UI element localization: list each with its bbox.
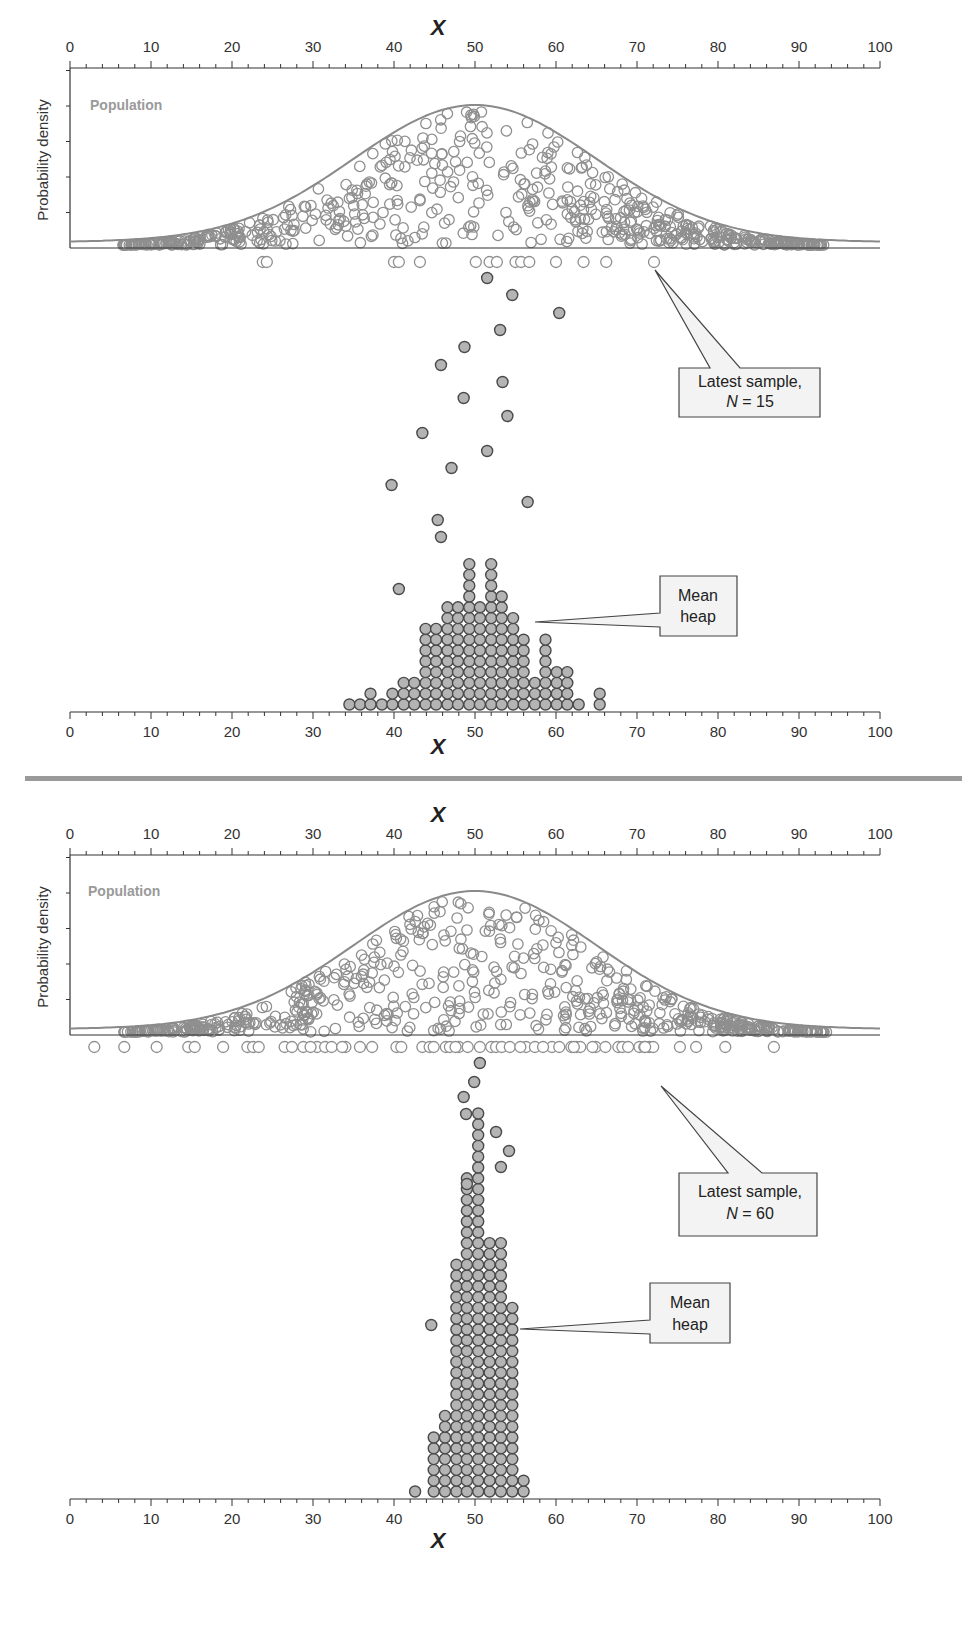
sample-point: [89, 1042, 100, 1053]
heap-mean-dot: [474, 677, 485, 688]
heap-mean-dot: [464, 623, 475, 634]
heap-mean-dot: [442, 613, 453, 624]
heap-mean-dot: [473, 1130, 484, 1141]
heap-mean-dot: [486, 656, 497, 667]
heap-mean-dot: [461, 1179, 472, 1190]
sample-mean-dot: [482, 273, 493, 284]
callout-text-line2: heap: [672, 1316, 708, 1333]
heap-mean-dot: [451, 1486, 462, 1497]
sample-point: [601, 257, 612, 268]
heap-mean-dot: [473, 1335, 484, 1346]
x-tick-label: 20: [224, 1510, 241, 1527]
x-tick-label: 80: [710, 825, 727, 842]
sample-point: [286, 1042, 297, 1053]
heap-mean-dot: [461, 1216, 472, 1227]
heap-mean-dot: [474, 623, 485, 634]
sample-point: [600, 1042, 611, 1053]
heap-mean-dot: [474, 656, 485, 667]
heap-mean-dot: [431, 688, 442, 699]
heap-mean-dot: [518, 645, 529, 656]
top-panel-population-label: Population: [90, 97, 162, 113]
sample-point: [326, 1042, 337, 1053]
heap-mean-dot: [473, 1227, 484, 1238]
top-panel-falling-means: [386, 273, 565, 595]
x-tick-label: 100: [867, 38, 892, 55]
heap-mean-dot: [562, 699, 573, 710]
heap-mean-dot: [344, 699, 355, 710]
heap-mean-dot: [431, 645, 442, 656]
top-panel-population-points: [118, 107, 829, 250]
heap-mean-dot: [495, 1292, 506, 1303]
sample-point: [515, 1042, 526, 1053]
heap-mean-dot: [355, 699, 366, 710]
heap-mean-dot: [474, 634, 485, 645]
heap-mean-dot: [461, 1270, 472, 1281]
dance-of-means-figure: X 0102030405060708090100 Probability den…: [0, 0, 972, 1628]
heap-mean-dot: [410, 1486, 421, 1497]
x-tick-label: 90: [791, 825, 808, 842]
heap-mean-dot: [442, 656, 453, 667]
sample-mean-dot: [495, 325, 506, 336]
heap-mean-dot: [398, 699, 409, 710]
heap-mean-dot: [440, 1421, 451, 1432]
sample-mean-dot: [458, 1092, 469, 1103]
bottom-panel-latest-sample-points: [89, 1042, 780, 1053]
heap-mean-dot: [440, 1410, 451, 1421]
heap-mean-dot: [495, 1313, 506, 1324]
sample-point: [491, 257, 502, 268]
x-tick-label: 70: [629, 1510, 646, 1527]
bottom-panel-upper-tick-labels: 0102030405060708090100: [66, 825, 893, 842]
bottom-panel-latest-sample-callout: Latest sample, N = 60: [661, 1086, 817, 1236]
heap-mean-dot: [440, 1475, 451, 1486]
heap-mean-dot: [453, 602, 464, 613]
heap-mean-dot: [507, 1367, 518, 1378]
heap-mean-dot: [473, 1378, 484, 1389]
heap-mean-dot: [473, 1313, 484, 1324]
heap-mean-dot: [484, 1432, 495, 1443]
heap-mean-dot: [461, 1292, 472, 1303]
heap-mean-dot: [442, 688, 453, 699]
heap-mean-dot: [507, 1410, 518, 1421]
top-panel-upper-tick-labels: 0102030405060708090100: [66, 38, 893, 55]
x-tick-label: 10: [143, 38, 160, 55]
heap-mean-dot: [428, 1454, 439, 1465]
sample-point: [367, 1042, 378, 1053]
heap-mean-dot: [495, 1464, 506, 1475]
heap-mean-dot: [474, 699, 485, 710]
top-panel-mean-heap: [344, 515, 605, 711]
heap-mean-dot: [507, 1356, 518, 1367]
heap-mean-dot: [473, 1324, 484, 1335]
heap-mean-dot: [440, 1486, 451, 1497]
heap-mean-dot: [387, 699, 398, 710]
heap-mean-dot: [420, 667, 431, 678]
heap-mean-dot: [440, 1454, 451, 1465]
heap-mean-dot: [529, 699, 540, 710]
heap-mean-dot: [507, 1324, 518, 1335]
heap-mean-dot: [473, 1346, 484, 1357]
bottom-panel-x-axis-title-upper: X: [429, 802, 447, 827]
heap-mean-dot: [496, 613, 507, 624]
heap-mean-dot: [495, 1421, 506, 1432]
x-tick-label: 10: [143, 825, 160, 842]
heap-mean-dot: [495, 1367, 506, 1378]
bottom-panel-mean-heap-callout: Mean heap: [520, 1283, 730, 1343]
heap-mean-dot: [461, 1367, 472, 1378]
heap-mean-dot: [473, 1443, 484, 1454]
heap-mean-dot: [495, 1486, 506, 1497]
heap-mean-dot: [508, 623, 519, 634]
heap-mean-dot: [495, 1410, 506, 1421]
heap-mean-dot: [464, 602, 475, 613]
heap-mean-dot: [451, 1281, 462, 1292]
heap-mean-dot: [486, 569, 497, 580]
heap-mean-dot: [451, 1292, 462, 1303]
heap-mean-dot: [495, 1378, 506, 1389]
sample-point: [414, 257, 425, 268]
heap-mean-dot: [428, 1443, 439, 1454]
heap-mean-dot: [495, 1238, 506, 1249]
heap-mean-dot: [365, 699, 376, 710]
heap-mean-dot: [508, 667, 519, 678]
heap-mean-dot: [453, 677, 464, 688]
heap-mean-dot: [473, 1216, 484, 1227]
x-tick-label: 90: [791, 1510, 808, 1527]
bottom-panel: X 0102030405060708090100 Probability den…: [34, 802, 893, 1553]
